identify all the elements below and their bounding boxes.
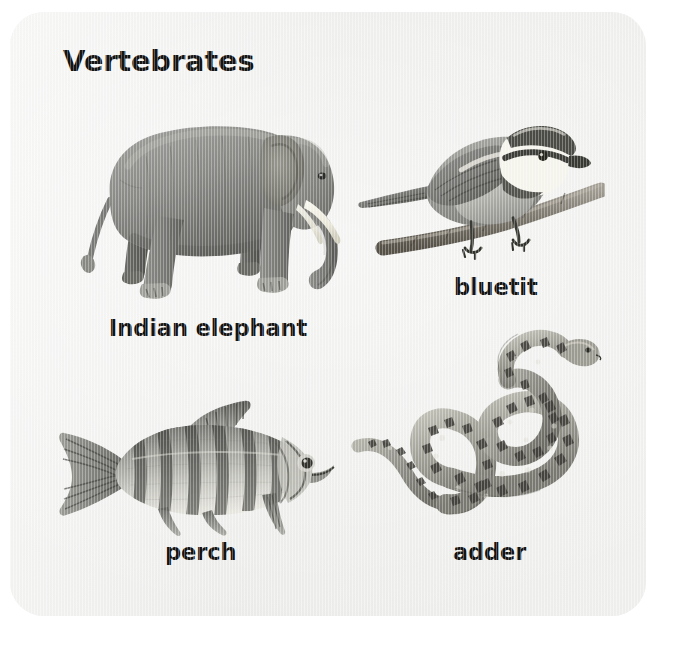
- caption-adder: adder: [453, 539, 526, 565]
- specimen-perch: [50, 397, 350, 542]
- caption-indian-elephant: Indian elephant: [109, 315, 307, 341]
- specimen-indian-elephant: [50, 80, 360, 305]
- vertebrates-figure-card: Vertebrates: [10, 12, 646, 616]
- caption-perch: perch: [165, 539, 236, 565]
- caption-bluetit: bluetit: [454, 274, 538, 300]
- specimen-bluetit: [355, 90, 605, 270]
- figure-title: Vertebrates: [63, 44, 255, 78]
- specimen-adder: [350, 322, 615, 542]
